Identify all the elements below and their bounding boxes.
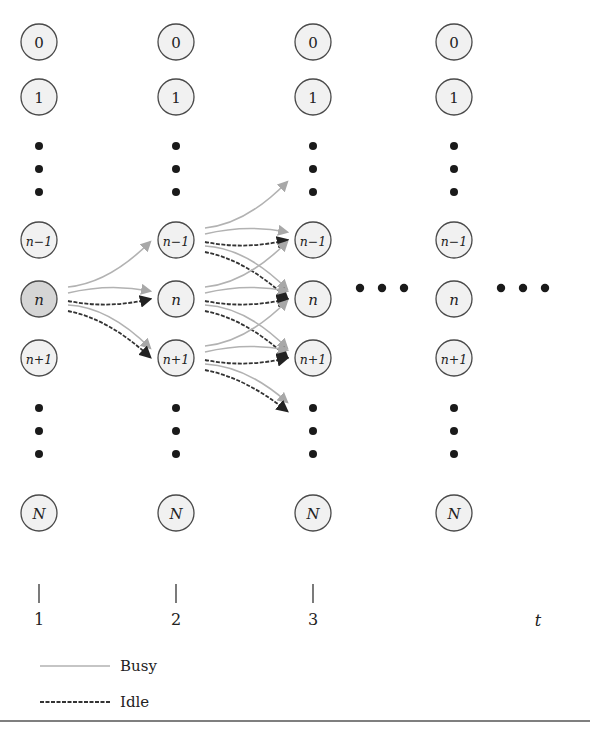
state-node-nplus-1-col3: n+1 bbox=[295, 340, 331, 376]
state-label: n bbox=[34, 291, 44, 309]
busy-transition-arrow bbox=[205, 364, 287, 402]
state-node-n-col2: n bbox=[158, 281, 194, 317]
vertical-ellipsis-dot bbox=[35, 404, 43, 412]
state-label: n bbox=[308, 291, 318, 309]
state-label: 1 bbox=[171, 89, 181, 107]
state-node-0-col2: 0 bbox=[158, 24, 194, 60]
busy-transition-arrow bbox=[205, 287, 287, 293]
state-node-N-col2: N bbox=[158, 495, 194, 531]
time-axis: 123t bbox=[34, 584, 548, 630]
idle-transition-arrow bbox=[205, 370, 287, 411]
vertical-ellipsis-dot bbox=[309, 404, 317, 412]
state-label: 1 bbox=[449, 89, 459, 107]
state-node-nplus-1-col1: n+1 bbox=[21, 340, 57, 376]
state-label: 0 bbox=[34, 34, 44, 52]
state-label: n−1 bbox=[300, 234, 326, 249]
vertical-ellipsis-dot bbox=[35, 427, 43, 435]
vertical-ellipsis-dot bbox=[309, 450, 317, 458]
busy-transition-arrow bbox=[205, 182, 287, 228]
horizontal-ellipsis-dot bbox=[519, 284, 527, 292]
axis-tick-label: 2 bbox=[171, 610, 181, 629]
vertical-ellipsis-dot bbox=[35, 450, 43, 458]
state-node-nplus-1-col4: n+1 bbox=[436, 340, 472, 376]
horizontal-ellipsis-dot bbox=[400, 284, 408, 292]
state-label: N bbox=[168, 505, 183, 523]
state-label: n−1 bbox=[163, 234, 189, 249]
vertical-ellipsis-dot bbox=[450, 450, 458, 458]
state-label: n bbox=[171, 291, 181, 309]
state-label: n+1 bbox=[163, 352, 189, 367]
vertical-ellipsis-dot bbox=[450, 427, 458, 435]
vertical-ellipsis-dot bbox=[450, 165, 458, 173]
busy-transition-arrow bbox=[205, 228, 287, 234]
busy-transition-arrow bbox=[205, 301, 287, 346]
vertical-ellipsis-dot bbox=[309, 427, 317, 435]
state-node-1-col3: 1 bbox=[295, 79, 331, 115]
state-label: 0 bbox=[171, 34, 181, 52]
vertical-ellipsis-dot bbox=[172, 404, 180, 412]
horizontal-ellipsis-dot bbox=[497, 284, 505, 292]
state-label: 1 bbox=[308, 89, 318, 107]
busy-transition-arrow bbox=[205, 242, 287, 287]
axis-label-time: t bbox=[535, 611, 542, 630]
idle-transition-arrow bbox=[205, 358, 287, 364]
busy-transition-arrow bbox=[68, 305, 150, 348]
idle-transition-arrow bbox=[205, 240, 287, 246]
axis-tick-label: 1 bbox=[34, 610, 44, 629]
vertical-ellipsis-dot bbox=[450, 142, 458, 150]
state-node-0-col4: 0 bbox=[436, 24, 472, 60]
vertical-ellipsis-dot bbox=[450, 404, 458, 412]
busy-transition-arrow bbox=[68, 242, 150, 287]
state-node-1-col4: 1 bbox=[436, 79, 472, 115]
state-label: 0 bbox=[449, 34, 459, 52]
state-node-nplus-1-col2: n+1 bbox=[158, 340, 194, 376]
idle-transition-arrow bbox=[68, 299, 150, 305]
vertical-ellipsis-dot bbox=[172, 165, 180, 173]
state-label: n−1 bbox=[26, 234, 52, 249]
idle-transition-arrow bbox=[68, 311, 150, 357]
horizontal-ellipsis-dot bbox=[356, 284, 364, 292]
state-node-n-col1: n bbox=[21, 281, 57, 317]
state-label: n−1 bbox=[441, 234, 467, 249]
horizontal-ellipsis-dot bbox=[378, 284, 386, 292]
state-node-nminus-1-col4: n−1 bbox=[436, 222, 472, 258]
state-node-0-col1: 0 bbox=[21, 24, 57, 60]
axis-tick-label: 3 bbox=[308, 610, 318, 629]
vertical-ellipsis-dot bbox=[35, 188, 43, 196]
state-label: 0 bbox=[308, 34, 318, 52]
vertical-ellipsis-dot bbox=[35, 165, 43, 173]
state-label: N bbox=[31, 505, 46, 523]
busy-transition-arrow bbox=[205, 346, 287, 352]
vertical-ellipsis-dot bbox=[309, 165, 317, 173]
state-lattice-diagram: 01n−1nn+1N01n−1nn+1N01n−1nn+1N01n−1nn+1N… bbox=[0, 0, 590, 732]
horizontal-ellipsis-dot bbox=[541, 284, 549, 292]
state-label: n bbox=[449, 291, 459, 309]
state-node-1-col2: 1 bbox=[158, 79, 194, 115]
idle-transition-arrow bbox=[205, 299, 287, 305]
state-node-1-col1: 1 bbox=[21, 79, 57, 115]
state-node-n-col4: n bbox=[436, 281, 472, 317]
state-node-nminus-1-col3: n−1 bbox=[295, 222, 331, 258]
state-node-N-col4: N bbox=[436, 495, 472, 531]
state-label: n+1 bbox=[441, 352, 467, 367]
vertical-ellipsis-dot bbox=[172, 188, 180, 196]
state-node-nminus-1-col1: n−1 bbox=[21, 222, 57, 258]
state-label: n+1 bbox=[26, 352, 52, 367]
vertical-ellipsis-dot bbox=[35, 142, 43, 150]
vertical-ellipsis-dot bbox=[450, 188, 458, 196]
busy-transition-arrow bbox=[68, 287, 150, 293]
state-node-nminus-1-col2: n−1 bbox=[158, 222, 194, 258]
state-node-N-col1: N bbox=[21, 495, 57, 531]
vertical-ellipsis-dot bbox=[309, 188, 317, 196]
vertical-ellipsis-dot bbox=[309, 142, 317, 150]
legend: Busy Idle bbox=[40, 657, 157, 711]
state-nodes: 01n−1nn+1N01n−1nn+1N01n−1nn+1N01n−1nn+1N bbox=[21, 24, 472, 531]
state-label: 1 bbox=[34, 89, 44, 107]
legend-busy-label: Busy bbox=[120, 657, 157, 675]
state-node-n-col3: n bbox=[295, 281, 331, 317]
state-node-0-col3: 0 bbox=[295, 24, 331, 60]
vertical-ellipsis-dot bbox=[172, 142, 180, 150]
vertical-ellipsis-dot bbox=[172, 427, 180, 435]
state-label: N bbox=[446, 505, 461, 523]
vertical-ellipsis-dot bbox=[172, 450, 180, 458]
